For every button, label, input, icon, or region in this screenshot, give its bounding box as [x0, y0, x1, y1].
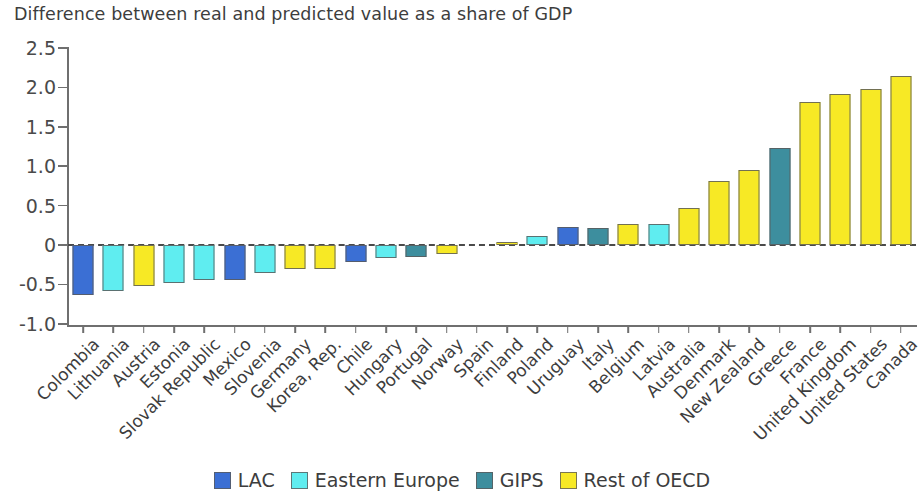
bar-slot [189, 48, 219, 325]
x-axis-tick-mark [839, 325, 841, 333]
bar-slot [280, 48, 310, 325]
bar-slot [704, 48, 734, 325]
bar[interactable] [254, 245, 275, 273]
y-axis-tick-mark [58, 47, 68, 49]
x-axis-tick-mark [113, 325, 115, 333]
bar[interactable] [890, 76, 911, 245]
bar[interactable] [799, 102, 820, 245]
bar[interactable] [648, 224, 669, 245]
bar-slot [765, 48, 795, 325]
bar[interactable] [618, 224, 639, 245]
x-axis-tick-mark [688, 325, 690, 333]
y-axis-tick-label: -0.5 [19, 273, 56, 295]
y-axis-tick-label: 2.0 [26, 76, 56, 98]
bar-slot [98, 48, 128, 325]
bar[interactable] [709, 181, 730, 245]
x-axis-tick-mark [234, 325, 236, 333]
y-axis-tick-mark [58, 323, 68, 325]
bar-slot [159, 48, 189, 325]
bar[interactable] [527, 236, 548, 245]
legend-label: GIPS [500, 469, 544, 491]
x-axis-tick-mark [476, 325, 478, 333]
bar-slot [341, 48, 371, 325]
bar-slot [401, 48, 431, 325]
legend-swatch-icon [291, 472, 308, 489]
x-axis-tick-mark [658, 325, 660, 333]
y-axis-tick-mark [58, 244, 68, 246]
bar[interactable] [769, 148, 790, 245]
legend-swatch-icon [214, 472, 231, 489]
legend-swatch-icon [560, 472, 577, 489]
x-axis-line [67, 325, 917, 327]
bar[interactable] [557, 227, 578, 245]
x-axis-tick-mark [597, 325, 599, 333]
bar-slot [431, 48, 461, 325]
x-axis-tick-mark [900, 325, 902, 333]
bar[interactable] [103, 245, 124, 291]
bar[interactable] [163, 245, 184, 283]
legend-item[interactable]: Rest of OECD [560, 469, 711, 491]
y-axis-tick-mark [58, 284, 68, 286]
bars-layer [68, 48, 916, 325]
bar-slot [129, 48, 159, 325]
bar-slot [68, 48, 98, 325]
bar-slot [734, 48, 764, 325]
chart-legend: LACEastern EuropeGIPSRest of OECD [0, 469, 924, 491]
chart-title: Difference between real and predicted va… [14, 4, 572, 24]
bar-slot [310, 48, 340, 325]
x-axis-tick-mark [385, 325, 387, 333]
y-axis-tick-label: 0.5 [26, 195, 56, 217]
y-axis-tick-mark [58, 165, 68, 167]
bar-slot [674, 48, 704, 325]
legend-item[interactable]: Eastern Europe [291, 469, 460, 491]
bar[interactable] [133, 245, 154, 286]
bar[interactable] [436, 245, 457, 254]
x-axis-tick-mark [415, 325, 417, 333]
bar[interactable] [315, 245, 336, 269]
y-axis-tick-label: 1.0 [26, 155, 56, 177]
x-axis-tick-mark [627, 325, 629, 333]
bar-slot [825, 48, 855, 325]
bar[interactable] [375, 245, 396, 258]
legend-item[interactable]: LAC [214, 469, 275, 491]
bar-slot [522, 48, 552, 325]
bar-slot [553, 48, 583, 325]
y-axis-tick-label: 2.5 [26, 37, 56, 59]
x-axis-tick-mark [749, 325, 751, 333]
y-axis-tick-label: -1.0 [19, 313, 56, 335]
x-axis-tick-mark [355, 325, 357, 333]
bar-slot [492, 48, 522, 325]
bar-slot [613, 48, 643, 325]
x-axis-tick-mark [294, 325, 296, 333]
legend-swatch-icon [476, 472, 493, 489]
x-axis-tick-mark [446, 325, 448, 333]
bar-slot [219, 48, 249, 325]
bar[interactable] [224, 245, 245, 280]
bar[interactable] [285, 245, 306, 269]
x-axis-tick-mark [82, 325, 84, 333]
bar[interactable] [406, 245, 427, 257]
bar-slot [643, 48, 673, 325]
bar[interactable] [587, 228, 608, 245]
bar[interactable] [860, 89, 881, 245]
x-axis-category-labels: ColombiaLithuaniaAustriaEstoniaSlovak Re… [68, 334, 916, 464]
bar[interactable] [345, 245, 366, 262]
bar[interactable] [73, 245, 94, 295]
bar[interactable] [830, 94, 851, 245]
y-axis-tick-mark [58, 87, 68, 89]
x-axis-tick-mark [203, 325, 205, 333]
bar[interactable] [678, 208, 699, 245]
x-axis-tick-mark [506, 325, 508, 333]
legend-item[interactable]: GIPS [476, 469, 544, 491]
x-axis-tick-mark [567, 325, 569, 333]
x-axis-tick-mark [143, 325, 145, 333]
legend-label: Eastern Europe [315, 469, 460, 491]
bar[interactable] [739, 170, 760, 245]
y-axis-tick-mark [58, 205, 68, 207]
x-axis-tick-mark [325, 325, 327, 333]
bar-slot [886, 48, 916, 325]
bar[interactable] [194, 245, 215, 280]
bar[interactable] [497, 242, 518, 245]
y-axis-tick-mark [58, 126, 68, 128]
bar-slot [371, 48, 401, 325]
